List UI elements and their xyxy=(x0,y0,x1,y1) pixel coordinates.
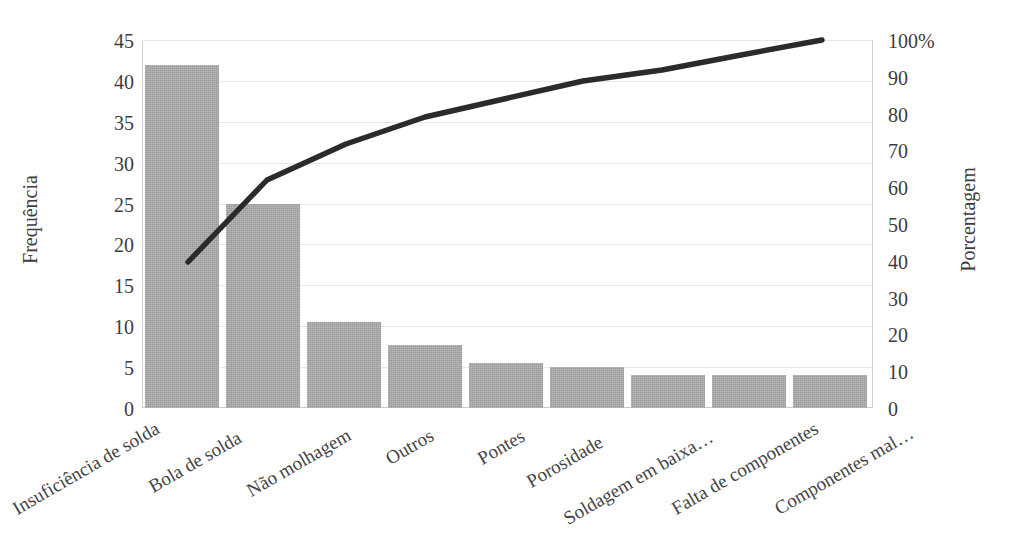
x-axis-category-labels: Insuficiência de solda Bola de solda Não… xyxy=(0,0,1012,556)
x-label-5: Porosidade xyxy=(523,432,606,491)
x-label-3: Outros xyxy=(382,425,436,467)
x-label-0: Insuficiência de solda xyxy=(9,418,162,517)
x-label-1: Bola de solda xyxy=(145,428,244,496)
x-label-4: Pontes xyxy=(474,426,527,468)
pareto-chart: 45 40 35 30 25 20 15 10 5 0 100% 90 80 7… xyxy=(0,0,1012,556)
x-label-2: Não molhagem xyxy=(243,425,353,500)
